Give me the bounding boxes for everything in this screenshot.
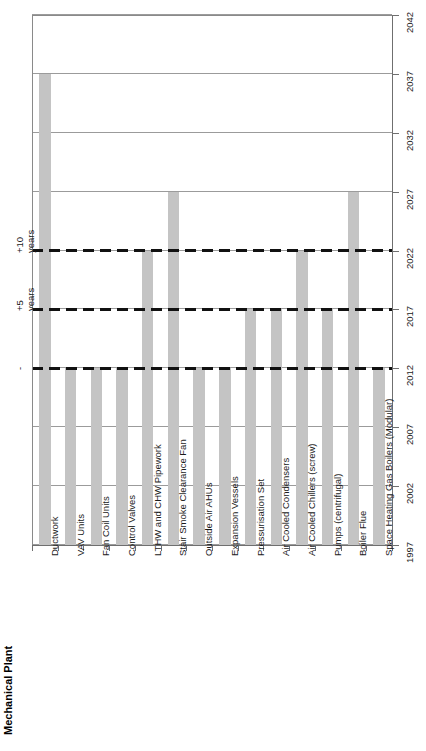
category-label-air-cooled-chillers-screw: Air Cooled Chillers (screw) (306, 444, 317, 556)
category-label-vav-units: VAV Units (75, 514, 86, 556)
plot-area (32, 15, 392, 545)
annotation-plus-five-years-line1: +5 (14, 301, 25, 312)
value-tick-label-2042: 2042 (404, 12, 415, 33)
plot-frame-top (32, 15, 393, 16)
annotation-plus-ten-years-line1: +10 (14, 236, 25, 252)
gridline-2032 (32, 132, 392, 133)
value-tick-2017 (392, 309, 399, 310)
value-tick-2037 (392, 74, 399, 75)
category-label-stair-smoke-clearance-fan: Stair Smoke Clearance Fan (177, 439, 188, 556)
value-tick-label-2027: 2027 (404, 189, 415, 210)
annotation-now-line1: - (14, 367, 25, 370)
reference-line-2022 (32, 249, 392, 252)
chart-canvas: 1997200220072012201720222027203220372042… (0, 0, 426, 751)
value-tick-label-2007: 2007 (404, 424, 415, 445)
value-tick-label-2037: 2037 (404, 71, 415, 92)
value-tick-label-2002: 2002 (404, 483, 415, 504)
gridline-2007 (32, 426, 392, 427)
value-tick-label-2022: 2022 (404, 247, 415, 268)
page-title: Mechanical Plant (2, 646, 14, 735)
value-tick-2042 (392, 15, 399, 16)
category-label-pressurisation-set: Pressurisation Set (255, 479, 266, 556)
category-tick-0 (32, 545, 33, 551)
gridline-2037 (32, 73, 392, 74)
category-label-expansion-vessels: Expansion Vessels (229, 476, 240, 556)
value-tick-label-2032: 2032 (404, 130, 415, 151)
value-tick-label-2012: 2012 (404, 365, 415, 386)
gridline-2027 (32, 191, 392, 192)
value-tick-2012 (392, 368, 399, 369)
value-tick-2027 (392, 192, 399, 193)
value-tick-2032 (392, 133, 399, 134)
value-tick-2022 (392, 251, 399, 252)
plot-frame-left (32, 15, 33, 546)
annotation-plus-five-years-line2: years (25, 288, 36, 311)
category-label-control-valves: Control Valves (126, 495, 137, 556)
category-label-space-heating-gas-boilers-modular: Space Heating Gas Boilers (Modular) (383, 399, 394, 556)
category-label-lthw-and-chw-pipework: LTHW and CHW Pipework (152, 444, 163, 556)
category-label-air-cooled-condensers: Air Cooled Condensers (280, 458, 291, 556)
value-tick-label-1997: 1997 (404, 542, 415, 563)
category-label-pumps-centrifugal: Pumps (centrifugal) (332, 474, 343, 556)
category-label-ductwork: Ductwork (49, 516, 60, 556)
value-tick-label-2017: 2017 (404, 306, 415, 327)
category-label-outside-air-ahus: Outside Air AHUs (203, 483, 214, 556)
category-label-boiler-flue: Boiler Flue (357, 511, 368, 556)
reference-line-2017 (32, 308, 392, 311)
plot-inner (32, 15, 392, 545)
category-label-fan-coil-units: Fan Coil Units (100, 496, 111, 556)
reference-line-2012 (32, 367, 392, 370)
annotation-plus-ten-years-line2: years (25, 229, 36, 252)
